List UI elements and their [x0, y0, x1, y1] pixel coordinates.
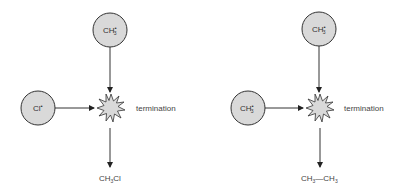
left-radical-label: CH•3: [240, 103, 254, 114]
top-radical-circle: CH•3: [93, 13, 127, 47]
left-radical-circle: Cl•: [21, 91, 55, 125]
termination-label: termination: [344, 104, 384, 113]
collision-starburst-icon: [97, 94, 125, 122]
termination-diagram: CH•3 Cl• termination CH3Cl CH•3: [0, 0, 403, 192]
diagram-right: CH•3 CH•3 termination CH3—CH3: [231, 12, 384, 184]
left-radical-circle: CH•3: [231, 91, 265, 125]
top-radical-circle: CH•3: [302, 12, 336, 46]
product-label: CH3Cl: [99, 174, 121, 184]
collision-starburst-icon: [306, 94, 334, 122]
diagram-left: CH•3 Cl• termination CH3Cl: [21, 13, 176, 184]
termination-label: termination: [136, 104, 176, 113]
top-radical-label: CH•3: [312, 24, 326, 35]
product-label: CH3—CH3: [301, 174, 338, 184]
top-radical-label: CH•3: [103, 25, 117, 36]
